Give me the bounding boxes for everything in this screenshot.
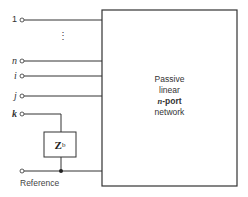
impedance-subscript: b bbox=[62, 141, 66, 149]
terminal-i-node bbox=[20, 74, 24, 78]
impedance-symbol: Z bbox=[55, 139, 62, 151]
network-line-2: linear bbox=[102, 85, 237, 96]
network-line-3: n-port bbox=[102, 96, 237, 107]
reference-label: Reference bbox=[20, 178, 59, 188]
reference-node bbox=[20, 169, 24, 173]
terminal-j-label: j bbox=[14, 91, 17, 101]
ellipsis-vertical: ⋮ bbox=[58, 34, 68, 38]
terminal-k-node bbox=[20, 112, 24, 116]
terminal-k-wire bbox=[24, 114, 61, 132]
impedance-label: Zb bbox=[44, 132, 76, 157]
junction-dot bbox=[59, 169, 63, 173]
network-line-1: Passive bbox=[102, 74, 237, 85]
terminal-n-label: n bbox=[12, 56, 17, 66]
network-line-4: network bbox=[102, 107, 237, 118]
terminal-n-node bbox=[20, 59, 24, 63]
terminal-1-node bbox=[20, 18, 24, 22]
terminal-j-node bbox=[20, 94, 24, 98]
network-label: Passive linear n-port network bbox=[102, 74, 237, 118]
terminal-k-label: k bbox=[12, 109, 17, 119]
terminal-1-label: 1 bbox=[12, 15, 17, 24]
terminal-i-label: i bbox=[14, 71, 17, 81]
